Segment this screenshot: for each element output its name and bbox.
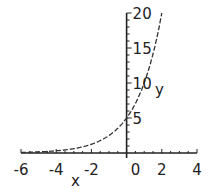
axes <box>21 13 197 158</box>
x-tick-label: -2 <box>84 161 99 179</box>
y-tick-label: 5 <box>133 110 143 128</box>
y-tick-label: 15 <box>133 40 152 58</box>
y-tick-label: 20 <box>133 5 152 23</box>
x-tick-label: -6 <box>14 161 29 179</box>
x-tick-label: -4 <box>49 161 64 179</box>
x-tick-label: 4 <box>192 161 202 179</box>
x-axis-label: x <box>71 172 80 190</box>
x-tick-labels: -6-4-2024 <box>14 161 202 179</box>
tick-marks <box>21 13 197 153</box>
exponential-plot: -6-4-2024 5101520 x y <box>0 0 213 193</box>
y-tick-label: 10 <box>133 75 152 93</box>
x-tick-label: 2 <box>157 161 167 179</box>
y-axis-label: y <box>155 81 164 99</box>
y-tick-labels: 5101520 <box>133 5 152 128</box>
x-tick-label: 0 <box>131 161 141 179</box>
